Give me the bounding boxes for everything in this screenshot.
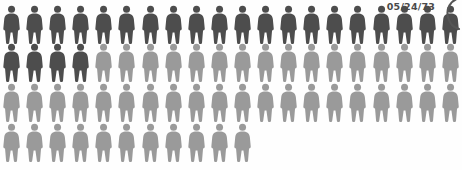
person-icon — [185, 82, 208, 122]
person-icon — [69, 122, 92, 162]
person-icon — [0, 122, 23, 162]
person-icon — [46, 122, 69, 162]
person-icon — [162, 4, 185, 44]
date-label: 05/24/73 — [387, 1, 435, 12]
person-icon — [23, 4, 46, 44]
person-icon — [139, 4, 162, 44]
person-icon — [162, 42, 185, 82]
person-icon — [23, 42, 46, 82]
person-icon — [231, 42, 254, 82]
person-icon — [323, 4, 346, 44]
person-icon — [231, 82, 254, 122]
person-icon — [277, 82, 300, 122]
person-icon — [346, 4, 369, 44]
person-icon — [300, 4, 323, 44]
person-icon — [231, 122, 254, 162]
person-icon — [185, 4, 208, 44]
figure-grid — [0, 0, 462, 170]
person-icon — [439, 42, 462, 82]
person-icon — [346, 42, 369, 82]
person-icon — [23, 82, 46, 122]
person-icon — [277, 42, 300, 82]
person-icon — [92, 122, 115, 162]
person-icon — [185, 122, 208, 162]
person-icon — [23, 122, 46, 162]
pictogram-row-3 — [0, 82, 462, 122]
person-icon — [46, 4, 69, 44]
pictogram-row-2 — [0, 42, 462, 82]
person-icon — [300, 82, 323, 122]
person-icon — [115, 122, 138, 162]
person-icon — [323, 42, 346, 82]
crescent-arc-icon — [432, 0, 462, 30]
person-icon — [0, 82, 23, 122]
person-icon — [139, 42, 162, 82]
person-icon — [393, 42, 416, 82]
person-icon — [323, 82, 346, 122]
person-icon — [185, 42, 208, 82]
person-icon — [92, 82, 115, 122]
person-icon — [46, 42, 69, 82]
person-icon — [254, 42, 277, 82]
person-icon — [393, 82, 416, 122]
person-icon — [231, 4, 254, 44]
person-icon — [346, 82, 369, 122]
person-icon — [69, 42, 92, 82]
person-icon — [69, 4, 92, 44]
person-icon — [254, 4, 277, 44]
person-icon — [115, 42, 138, 82]
person-icon — [439, 82, 462, 122]
person-icon — [208, 122, 231, 162]
person-icon — [416, 42, 439, 82]
person-icon — [300, 42, 323, 82]
person-icon — [46, 82, 69, 122]
pictogram-row-4 — [0, 122, 254, 162]
person-icon — [0, 42, 23, 82]
pictogram-chart: 05/24/73 — [0, 0, 462, 170]
person-icon — [416, 82, 439, 122]
person-icon — [208, 82, 231, 122]
person-icon — [277, 4, 300, 44]
person-icon — [92, 4, 115, 44]
person-icon — [162, 82, 185, 122]
person-icon — [69, 82, 92, 122]
person-icon — [139, 122, 162, 162]
person-icon — [115, 4, 138, 44]
person-icon — [208, 42, 231, 82]
person-icon — [370, 82, 393, 122]
person-icon — [208, 4, 231, 44]
person-icon — [254, 82, 277, 122]
person-icon — [139, 82, 162, 122]
person-icon — [162, 122, 185, 162]
person-icon — [115, 82, 138, 122]
person-icon — [0, 4, 23, 44]
person-icon — [92, 42, 115, 82]
person-icon — [370, 42, 393, 82]
